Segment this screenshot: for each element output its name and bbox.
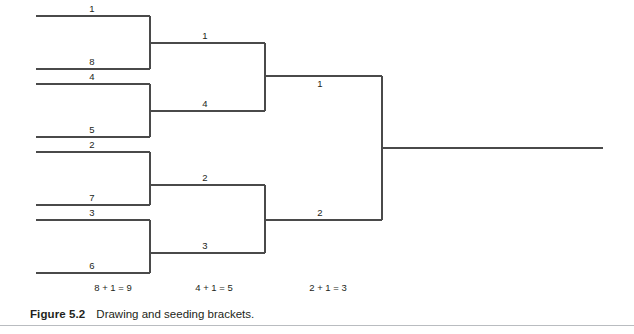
figure-container: 18452736142312 8 + 1 = 94 + 1 = 52 + 1 =… (0, 0, 634, 334)
bracket-diagram: 18452736142312 8 + 1 = 94 + 1 = 52 + 1 =… (0, 0, 634, 300)
figure-caption-text: Drawing and seeding brackets. (96, 308, 254, 320)
semifinals-seed-3: 2 (194, 173, 216, 183)
bracket-lines-svg (0, 0, 634, 300)
round-of-eight-seed-7: 3 (81, 208, 103, 218)
semifinals-seed-4: 3 (194, 241, 216, 251)
caption-divider-rule (0, 325, 634, 326)
finals-seed-1: 1 (309, 79, 331, 89)
figure-caption-label: Figure 5.2 (30, 308, 85, 320)
round-of-eight-seed-8: 6 (81, 261, 103, 271)
semifinals-formula: 4 + 1 = 5 (154, 283, 274, 293)
round-of-eight-seed-2: 8 (81, 57, 103, 67)
round-of-eight-seed-1: 1 (81, 4, 103, 14)
semifinals-seed-1: 1 (194, 31, 216, 41)
semifinals-seed-2: 4 (194, 99, 216, 109)
bracket-line-group (36, 16, 603, 273)
round-of-eight-seed-4: 5 (81, 125, 103, 135)
finals-formula: 2 + 1 = 3 (268, 283, 388, 293)
figure-caption: Figure 5.2Drawing and seeding brackets. (30, 306, 610, 322)
round-of-eight-seed-6: 7 (81, 193, 103, 203)
finals-seed-2: 2 (309, 208, 331, 218)
round-of-eight-seed-5: 2 (81, 140, 103, 150)
round-of-eight-seed-3: 4 (81, 72, 103, 82)
